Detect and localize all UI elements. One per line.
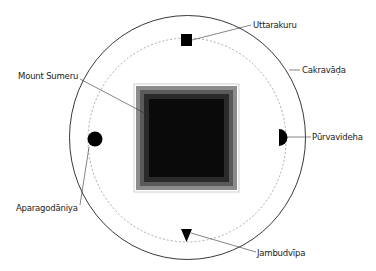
jambudvipa-leader-line bbox=[191, 233, 256, 252]
purvavideha-label: Pūrvavideha bbox=[312, 132, 363, 142]
mount-sumeru-label: Mount Sumeru bbox=[18, 71, 78, 81]
cakravada-label: Cakravāḍa bbox=[302, 65, 346, 75]
uttarakuru-square-icon bbox=[181, 34, 192, 46]
uttarakuru-label: Uttarakuru bbox=[253, 20, 297, 30]
aparagodaniya-label: Aparagodāniya bbox=[16, 203, 78, 213]
cosmology-diagram: Uttarakuru Cakravāḍa Mount Sumeru Pūrvav… bbox=[0, 0, 376, 271]
aparagodaniya-circle-icon bbox=[88, 132, 103, 147]
jambudvipa-triangle-icon bbox=[181, 229, 192, 242]
uttarakuru-leader-line bbox=[192, 25, 251, 40]
purvavideha-half-circle-icon bbox=[279, 129, 287, 146]
jambudvipa-label: Jambudvīpa bbox=[257, 248, 305, 258]
mount-sumeru-square bbox=[134, 84, 239, 192]
